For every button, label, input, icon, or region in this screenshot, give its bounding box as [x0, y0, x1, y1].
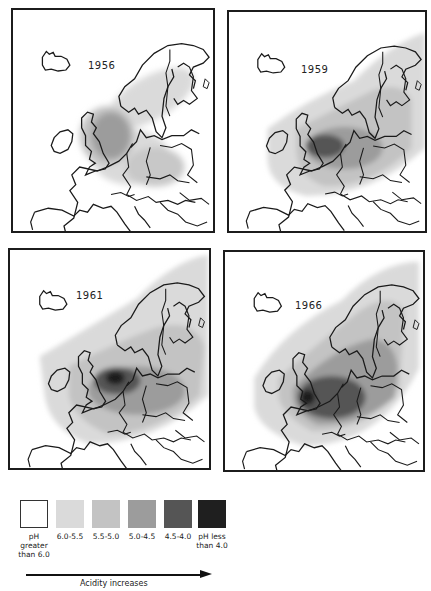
legend-label: 5.0-4.5: [122, 532, 162, 541]
year-label: 1959: [301, 64, 328, 75]
legend-swatch-5.0-4.5: [128, 500, 156, 528]
legend-label: 5.5-5.0: [86, 532, 126, 541]
europe-map: [13, 10, 213, 231]
year-label: 1956: [88, 60, 115, 71]
map-panel-1956: 1956: [11, 8, 215, 233]
legend-swatch-6.0-5.5: [56, 500, 84, 528]
europe-map: [229, 12, 425, 231]
year-label: 1966: [295, 300, 322, 311]
legend-label: 6.0-5.5: [50, 532, 90, 541]
legend-label: pH lessthan 4.0: [192, 532, 232, 550]
europe-map: [10, 250, 209, 468]
arrow-shaft: [26, 574, 202, 576]
map-panel-1966: 1966: [223, 250, 425, 472]
legend-swatch-lt-4.0: [198, 500, 226, 528]
legend-swatch-5.5-5.0: [92, 500, 120, 528]
legend-swatch-gt-6.0: [20, 500, 48, 528]
arrow-caption: Acidity increases: [80, 579, 148, 588]
legend-label: pH greaterthan 6.0: [14, 532, 54, 559]
arrow-head-icon: [200, 570, 212, 578]
year-label: 1961: [76, 290, 103, 301]
europe-map: [225, 252, 423, 470]
legend: pH greaterthan 6.0 6.0-5.5 5.5-5.0 5.0-4…: [12, 500, 242, 550]
map-panel-1959: 1959: [227, 10, 427, 233]
legend-swatch-4.5-4.0: [164, 500, 192, 528]
map-panel-1961: 1961: [8, 248, 211, 470]
